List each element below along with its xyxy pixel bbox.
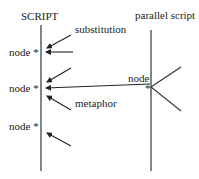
script-title: SCRIPT bbox=[21, 10, 59, 22]
parallel-branch-up bbox=[151, 67, 181, 87]
script-diagram: SCRIPT parallel script node * node * nod… bbox=[0, 0, 199, 179]
node-label-3: node * bbox=[9, 120, 39, 132]
parallel-script-title: parallel script bbox=[135, 9, 195, 21]
node-label-1: node * bbox=[9, 46, 39, 58]
metaphor-arrow bbox=[47, 96, 71, 110]
arrow-into-node-3 bbox=[47, 133, 71, 146]
metaphor-label: metaphor bbox=[75, 97, 117, 109]
substitution-label: substitution bbox=[75, 23, 127, 35]
node-label-2: node * bbox=[9, 82, 39, 94]
arrow-into-node-2 bbox=[47, 68, 71, 82]
parallel-node-star: * bbox=[145, 82, 151, 94]
substitution-arrow-diagonal bbox=[47, 35, 71, 48]
diagram-svg: SCRIPT parallel script node * node * nod… bbox=[0, 0, 199, 179]
parallel-branch-down bbox=[151, 87, 181, 111]
parallel-link-arrow bbox=[46, 84, 150, 88]
